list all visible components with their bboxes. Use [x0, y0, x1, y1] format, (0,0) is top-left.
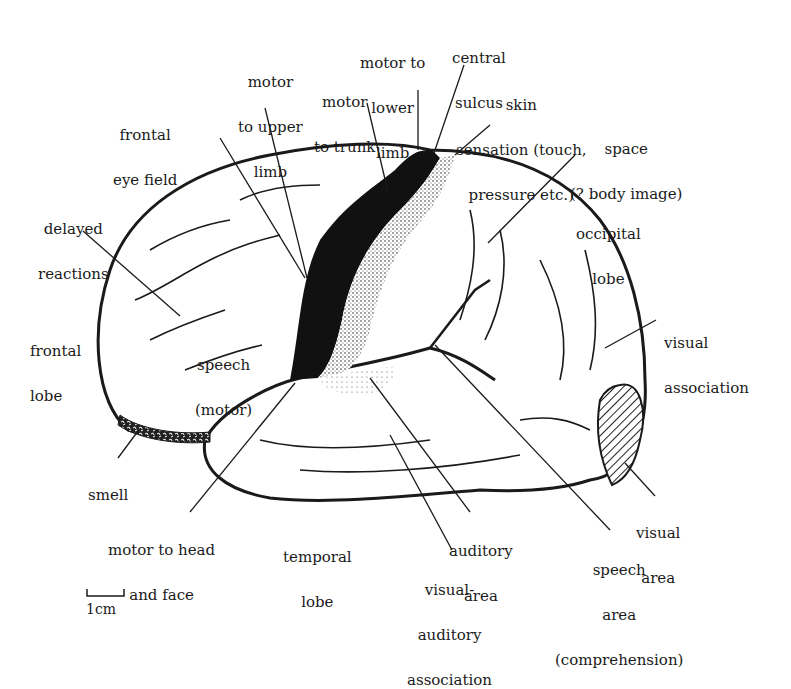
label-speech-motor: speech (motor) [195, 328, 252, 433]
label-motor-lower-limb: motor to lower limb [360, 26, 425, 176]
label-motor-upper-limb: motor to upper limb [238, 45, 303, 195]
label-delayed-reactions: delayed reactions [38, 192, 109, 297]
label-motor-head-face: motor to head and face [108, 513, 215, 618]
label-scale-bar: 1cm [86, 572, 116, 632]
label-occipital-lobe: occipital lobe [576, 197, 641, 302]
label-frontal-lobe: frontal lobe [30, 314, 81, 419]
label-temporal-lobe: temporal lobe [283, 520, 352, 625]
label-skin-sensation: skin sensation (touch, pressure etc.) [456, 68, 587, 218]
label-visual-auditory-association: visual- auditory association [407, 553, 492, 689]
label-frontal-eye-field: frontal eye field [113, 98, 177, 203]
label-smell: smell [88, 458, 128, 518]
label-speech-comprehension: speech area (comprehension) [555, 533, 683, 683]
visual-area [598, 384, 643, 485]
label-visual-association: visual association [664, 306, 749, 411]
